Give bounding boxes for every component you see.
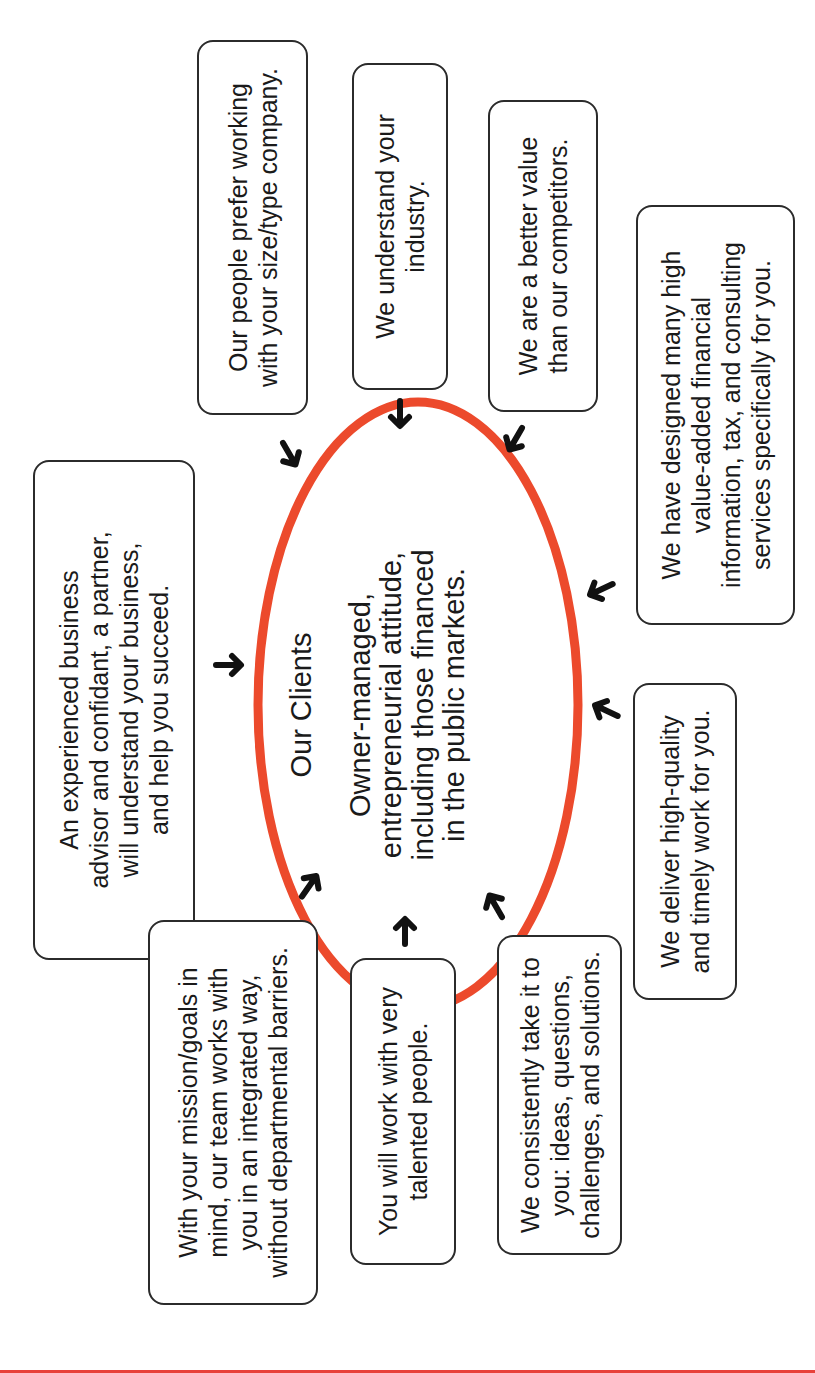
arrow-icon <box>380 395 420 435</box>
box-designed-services: We have designed many high value-added f… <box>636 205 795 625</box>
box-talented-people: You will work with very talented people. <box>350 958 456 1265</box>
box-better-value: We are a better value than our competito… <box>488 100 598 412</box>
box-take-it-to-you: We consistently take it to you: ideas, q… <box>497 935 622 1255</box>
box-high-quality: We deliver high-quality and timely work … <box>633 683 737 1000</box>
box-size-type: Our people prefer working with your size… <box>197 40 308 415</box>
box-experienced-advisor: An experienced business advisor and conf… <box>33 460 195 960</box>
box-integrated-team: With your mission/goals in mind, our tea… <box>148 920 318 1305</box>
box-industry: We understand your industry. <box>352 63 448 390</box>
diagram-stage: Our Clients Owner-managed, entrepreneuri… <box>0 0 815 1373</box>
arrow-icon <box>210 645 250 685</box>
arrow-icon <box>385 910 425 950</box>
center-description: Owner-managed, entrepreneurial attitude,… <box>345 485 470 925</box>
center-title: Our Clients <box>285 505 318 905</box>
